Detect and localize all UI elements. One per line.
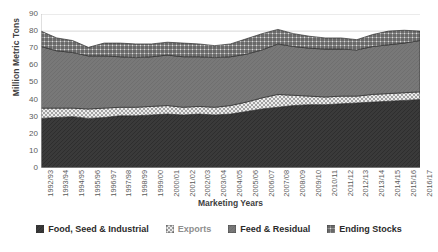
x-tick-label: 1998/99 — [140, 170, 149, 197]
area-series-group — [41, 29, 420, 168]
x-tick-label: 2003/04 — [219, 170, 228, 197]
x-tick-label: 2000/01 — [172, 170, 181, 197]
x-tick-label: 2014/15 — [393, 170, 402, 197]
x-tick-label: 2012/13 — [361, 170, 370, 197]
y-tick-label: 80 — [16, 27, 38, 35]
x-tick-label: 2009/10 — [314, 170, 323, 197]
x-tick-label: 2010/11 — [330, 170, 339, 196]
legend-item[interactable]: Ending Stocks — [327, 224, 402, 234]
y-axis-ticks: 0102030405060708090 — [14, 14, 38, 168]
x-tick-label: 2005/06 — [251, 170, 260, 197]
y-tick-label: 90 — [16, 10, 38, 18]
y-tick-label: 70 — [16, 44, 38, 52]
x-tick-label: 2008/09 — [298, 170, 307, 197]
legend-label: Food, Seed & Industrial — [48, 224, 149, 234]
x-tick-label: 2006/07 — [267, 170, 276, 197]
y-tick-label: 40 — [16, 96, 38, 104]
x-tick-label: 2002/03 — [203, 170, 212, 197]
y-tick-label: 60 — [16, 61, 38, 69]
legend-label: Feed & Residual — [240, 224, 310, 234]
plot-area — [41, 14, 420, 168]
x-tick-label: 2016/17 — [425, 170, 434, 197]
x-tick-label: 1993/94 — [61, 170, 70, 197]
x-tick-label: 2001/02 — [188, 170, 197, 197]
x-tick-label: 2007/08 — [282, 170, 291, 197]
legend-item[interactable]: Food, Seed & Industrial — [36, 224, 149, 234]
x-tick-label: 1999/00 — [156, 170, 165, 197]
legend-swatch-icon — [327, 225, 335, 233]
x-tick-label: 2013/14 — [377, 170, 386, 197]
legend-label: Exports — [178, 224, 212, 234]
x-tick-label: 2015/16 — [409, 170, 418, 197]
x-axis-title: Marketing Years — [41, 198, 420, 208]
y-tick-label: 20 — [16, 130, 38, 138]
x-tick-label: 2011/12 — [346, 170, 355, 196]
y-tick-label: 50 — [16, 78, 38, 86]
x-tick-label: 1992/93 — [46, 170, 55, 197]
legend-label: Ending Stocks — [339, 224, 402, 234]
legend-swatch-icon — [228, 225, 236, 233]
x-tick-label: 1996/97 — [109, 170, 118, 197]
x-tick-label: 2004/05 — [235, 170, 244, 197]
stacked-area-chart: Million Metric Tons 0102030405060708090 — [0, 0, 438, 252]
y-tick-label: 30 — [16, 113, 38, 121]
y-tick-label: 10 — [16, 147, 38, 155]
chart-legend: Food, Seed & IndustrialExportsFeed & Res… — [0, 218, 438, 240]
legend-swatch-icon — [166, 225, 174, 233]
y-tick-label: 0 — [16, 164, 38, 172]
legend-swatch-icon — [36, 225, 44, 233]
legend-item[interactable]: Exports — [166, 224, 212, 234]
x-tick-label: 1995/96 — [93, 170, 102, 197]
x-tick-label: 1994/95 — [77, 170, 86, 197]
plot-svg — [41, 14, 420, 168]
x-tick-label: 1997/98 — [124, 170, 133, 197]
legend-item[interactable]: Feed & Residual — [228, 224, 310, 234]
